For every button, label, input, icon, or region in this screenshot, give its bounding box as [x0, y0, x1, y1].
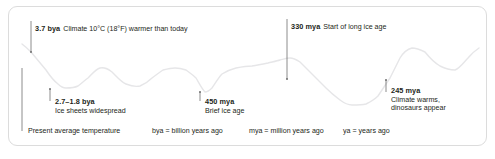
- legend-key-bya: bya = billion years ago: [152, 127, 223, 135]
- annotation-2-7-1-8-bya-body: Ice sheets widespread: [55, 107, 126, 115]
- legend-key-mya: mya = million years ago: [249, 127, 324, 135]
- annotation-3-7-bya: 3.7 byaClimate 10°C (18°F) warmer than t…: [35, 17, 188, 36]
- marker-245-mya: [385, 79, 387, 81]
- annotation-3-7-bya-headline: 3.7 bya: [35, 24, 60, 33]
- annotation-2-7-1-8-bya: 2.7–1.8 bya Ice sheets widespread: [55, 98, 126, 115]
- marker-450-mya: [199, 91, 201, 93]
- annotation-330-mya: 330 myaStart of long ice age: [291, 15, 386, 34]
- legend-baseline-label: Present average temperature: [28, 127, 120, 135]
- annotation-450-mya: 450 mya Brief ice age: [205, 98, 244, 115]
- marker-2-7-1-8-bya: [49, 88, 51, 90]
- annotation-245-mya-body-line2: dinosaurs appear: [391, 104, 446, 112]
- annotation-330-mya-body: Start of long ice age: [323, 23, 386, 31]
- annotation-450-mya-headline: 450 mya: [205, 98, 244, 107]
- legend-key-ya: ya = years ago: [343, 127, 390, 135]
- annotation-245-mya: 245 mya Climate warms, dinosaurs appear: [391, 87, 446, 112]
- marker-3-7-bya: [30, 51, 32, 53]
- marker-330-mya: [286, 78, 288, 80]
- annotation-245-mya-headline: 245 mya: [391, 87, 446, 96]
- annotation-450-mya-body: Brief ice age: [205, 107, 244, 115]
- annotation-2-7-1-8-bya-headline: 2.7–1.8 bya: [55, 98, 126, 107]
- annotation-3-7-bya-body: Climate 10°C (18°F) warmer than today: [63, 25, 187, 33]
- annotation-245-mya-body-line1: Climate warms,: [391, 96, 446, 104]
- annotation-330-mya-headline: 330 mya: [291, 22, 320, 31]
